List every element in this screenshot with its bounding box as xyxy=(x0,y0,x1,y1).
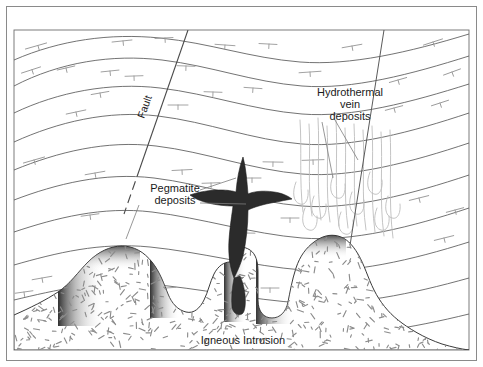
intrusion-speckle xyxy=(374,347,375,350)
hydrothermal-label-line3: deposits xyxy=(330,110,371,122)
intrusion-speckle xyxy=(287,339,291,340)
intrusion-speckle xyxy=(330,335,331,337)
intrusion-speckle xyxy=(31,318,32,321)
intrusion-speckle xyxy=(142,260,143,264)
hydrothermal-label-line1: Hydrothermal xyxy=(317,86,383,98)
intrusion-speckle xyxy=(267,321,268,326)
intrusion-speckle xyxy=(147,274,148,277)
intrusion-speckle xyxy=(110,311,111,318)
intrusion-speckle xyxy=(349,274,350,280)
intrusion-speckle xyxy=(409,331,413,332)
intrusion-speckle xyxy=(149,323,150,328)
intrusion-speckle xyxy=(312,252,313,258)
intrusion-speckle xyxy=(85,293,86,296)
intrusion-speckle xyxy=(151,349,155,350)
intrusion-speckle xyxy=(428,340,429,342)
intrusion-speckle xyxy=(269,330,273,331)
intrusion-speckle xyxy=(290,349,295,350)
geologic-cross-section-diagram: Fault Igneous Intrusion xyxy=(0,0,483,367)
intrusion-speckle xyxy=(215,310,217,311)
intrusion-speckle xyxy=(131,313,136,314)
figure-canvas: Fault Igneous Intrusion xyxy=(0,0,483,367)
intrusion-speckle xyxy=(409,345,410,348)
pegmatite-label-line1: Pegmatite xyxy=(150,182,200,194)
intrusion-speckle xyxy=(135,301,136,305)
intrusion-speckle xyxy=(297,283,302,284)
intrusion-speckle xyxy=(18,348,22,349)
pegmatite-label-line2: deposits xyxy=(155,194,196,206)
hydrothermal-label-line2: vein xyxy=(340,98,360,110)
intrusion-speckle xyxy=(221,322,222,328)
igneous-intrusion-label: Igneous Intrusion xyxy=(201,334,285,346)
intrusion-speckle xyxy=(45,340,49,341)
intrusion-speckle xyxy=(203,330,206,331)
intrusion-speckle xyxy=(245,291,248,292)
intrusion-speckle xyxy=(324,251,325,254)
intrusion-speckle xyxy=(418,338,419,341)
annotation-label-pegmatite: Pegmatite deposits xyxy=(150,182,200,206)
intrusion-speckle xyxy=(148,284,149,287)
intrusion-speckle xyxy=(44,321,47,322)
intrusion-speckle xyxy=(64,287,68,288)
intrusion-speckle xyxy=(61,293,64,294)
intrusion-speckle xyxy=(313,296,317,297)
intrusion-speckle xyxy=(395,327,399,328)
